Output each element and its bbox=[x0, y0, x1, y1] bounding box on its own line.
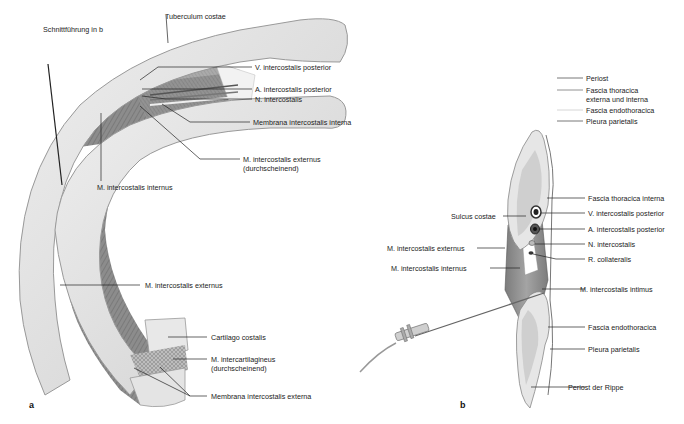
label-fascia-endothoracica: Fascia endothoracica bbox=[588, 323, 656, 332]
label-membrana-intercostalis-externa: Membrana intercostalis externa bbox=[211, 392, 311, 401]
legend-fascia-thoracica: Fascia thoracica externa und interna bbox=[586, 86, 648, 104]
label-a-intercostalis-posterior-a: A. intercostalis posterior bbox=[255, 85, 332, 94]
label-a-intercostalis-posterior-b: A. intercostalis posterior bbox=[588, 225, 665, 234]
label-pleura-parietalis: Pleura parietalis bbox=[588, 345, 640, 354]
label-tuberculum-costae: Tuberculum costae bbox=[165, 12, 226, 21]
label-m-intercartilagineus: M. intercartilagineus (durchscheinend) bbox=[211, 355, 275, 373]
label-m-intercostalis-intimus: M. intercostalis intimus bbox=[580, 285, 653, 294]
label-periost-der-rippe: Periost der Rippe bbox=[568, 383, 624, 392]
label-membrana-intercostalis-interna: Membrana intercostalis interna bbox=[253, 118, 351, 127]
label-m-intercostalis-externus-translucent: M. intercostalis externus (durchscheinen… bbox=[243, 155, 321, 173]
label-schnittfuehrung: Schnittführung in b bbox=[43, 25, 103, 34]
catheter-hub bbox=[395, 323, 430, 342]
anatomy-illustration bbox=[0, 0, 684, 424]
label-cartilago-costalis: Cartilago costalis bbox=[211, 333, 266, 342]
panel-letter-b: b bbox=[460, 400, 466, 410]
label-v-intercostalis-posterior-a: V. intercostalis posterior bbox=[255, 63, 331, 72]
legend-fascia-endothoracica: Fascia endothoracica bbox=[586, 106, 654, 115]
panel-b-drawing bbox=[360, 78, 585, 408]
label-n-intercostalis-b: N. intercostalis bbox=[588, 240, 635, 249]
label-m-intercostalis-internus-b: M. intercostalis internus bbox=[391, 264, 467, 273]
catheter-tube bbox=[360, 343, 396, 372]
label-r-collateralis: R. collateralis bbox=[588, 255, 631, 264]
legend-pleura-parietalis: Pleura parietalis bbox=[586, 117, 638, 126]
label-m-intercostalis-internus-a: M. intercostalis internus bbox=[97, 183, 173, 192]
legend-periost: Periost bbox=[586, 74, 608, 83]
panel-a-drawing bbox=[19, 15, 347, 407]
label-n-intercostalis-a: N. intercostalis bbox=[255, 95, 302, 104]
label-m-intercostalis-externus-lower: M. intercostalis externus bbox=[145, 281, 223, 290]
label-v-intercostalis-posterior-b: V. intercostalis posterior bbox=[588, 209, 664, 218]
label-m-intercostalis-externus-b: M. intercostalis externus bbox=[387, 244, 465, 253]
label-fascia-thoracica-interna: Fascia thoracica interna bbox=[588, 194, 664, 203]
label-sulcus-costae: Sulcus costae bbox=[451, 212, 496, 221]
panel-letter-a: a bbox=[29, 400, 34, 410]
nerve-section bbox=[529, 241, 535, 246]
collateral-branch bbox=[529, 251, 534, 255]
